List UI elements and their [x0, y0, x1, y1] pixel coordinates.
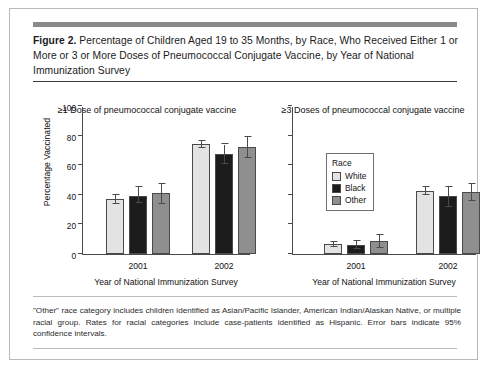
- legend-swatch-icon: [332, 172, 341, 181]
- error-bar-cap: [468, 183, 475, 184]
- plot-area-three-doses: 20012002 Year of National Immunization S…: [292, 107, 476, 255]
- error-bar-cap: [198, 140, 205, 141]
- x-axis-label: Year of National Immunization Survey: [292, 277, 476, 287]
- legend-entry-label: White: [345, 171, 366, 181]
- y-axis-line: [292, 107, 293, 255]
- legend-entries: WhiteBlackOther: [332, 171, 366, 205]
- y-axis-tick: [288, 164, 292, 165]
- y-axis-tick: [78, 135, 82, 136]
- legend-title: Race: [332, 158, 366, 168]
- chart-panel-one-dose: ≥1 Dose of pneumococcal conjugate vaccin…: [36, 97, 258, 293]
- legend-swatch-icon: [332, 196, 341, 205]
- y-axis-tick: [288, 223, 292, 224]
- error-bar-cap: [112, 203, 119, 204]
- caption-divider: [33, 81, 457, 82]
- x-axis-tick-label: 2002: [214, 261, 233, 271]
- error-bar: [471, 184, 472, 201]
- error-bar-cap: [353, 248, 360, 249]
- error-bar-cap: [330, 241, 337, 242]
- bar: [238, 147, 256, 254]
- legend-swatch-icon: [332, 184, 341, 193]
- bar: [192, 144, 210, 254]
- bar: [129, 196, 147, 254]
- error-bar: [138, 187, 139, 203]
- y-axis-tick: [78, 194, 82, 195]
- x-axis-label: Year of National Immunization Survey: [82, 277, 250, 287]
- bar: [106, 199, 124, 254]
- y-axis-tick-label: 40: [67, 192, 76, 202]
- error-bar-cap: [353, 240, 360, 241]
- error-bar: [448, 187, 449, 207]
- footnote-divider-top: [33, 296, 457, 297]
- legend-entry: Other: [332, 195, 366, 205]
- y-axis-tick-label: 100: [62, 103, 76, 113]
- x-axis-tick-label: 2002: [438, 261, 457, 271]
- error-bar-cap: [422, 194, 429, 195]
- error-bar-cap: [112, 194, 119, 195]
- x-axis-line: [292, 254, 476, 255]
- x-axis-tick-label: 2001: [346, 261, 365, 271]
- error-bar: [224, 145, 225, 164]
- bar: [416, 191, 434, 254]
- figure-caption: Figure 2. Percentage of Children Aged 19…: [33, 33, 461, 79]
- x-axis-line: [82, 254, 250, 255]
- error-bar-cap: [158, 203, 165, 204]
- error-bar-cap: [221, 163, 228, 164]
- figure-caption-text: Percentage of Children Aged 19 to 35 Mon…: [33, 35, 458, 76]
- error-bar-cap: [198, 147, 205, 148]
- plot-area-one-dose: 020406080100 20012002 Year of National I…: [82, 107, 250, 255]
- bar: [462, 192, 480, 254]
- y-axis-tick: [288, 105, 292, 106]
- y-axis-tick: [288, 194, 292, 195]
- error-bar-cap: [158, 183, 165, 184]
- y-axis-tick: [78, 253, 82, 254]
- y-axis-tick-label: 20: [67, 221, 76, 231]
- y-axis-tick: [78, 223, 82, 224]
- top-rule: [33, 22, 457, 27]
- legend-entry-label: Black: [345, 183, 365, 193]
- error-bar-cap: [422, 186, 429, 187]
- error-bar-cap: [244, 136, 251, 137]
- error-bar-cap: [135, 202, 142, 203]
- chart-legend: Race WhiteBlackOther: [326, 153, 374, 211]
- error-bar-cap: [244, 157, 251, 158]
- footnote-divider-bottom: [33, 348, 457, 349]
- figure-frame: Figure 2. Percentage of Children Aged 19…: [9, 8, 478, 360]
- legend-entry: Black: [332, 183, 366, 193]
- y-axis-label: Percentage Vaccinated: [42, 107, 52, 217]
- y-axis-tick: [288, 135, 292, 136]
- legend-entry: White: [332, 171, 366, 181]
- error-bar: [247, 137, 248, 158]
- error-bar: [379, 235, 380, 248]
- error-bar-cap: [445, 186, 452, 187]
- legend-entry-label: Other: [345, 195, 366, 205]
- error-bar-cap: [376, 247, 383, 248]
- error-bar: [161, 184, 162, 204]
- figure-footnote: "Other" race category includes children …: [33, 305, 461, 340]
- y-axis-tick: [288, 253, 292, 254]
- y-axis-line: [82, 107, 83, 255]
- y-axis-tick-label: 60: [67, 162, 76, 172]
- error-bar-cap: [330, 246, 337, 247]
- error-bar-cap: [135, 186, 142, 187]
- y-axis-tick: [78, 164, 82, 165]
- error-bar-cap: [468, 200, 475, 201]
- bar: [215, 154, 233, 254]
- y-axis-tick: [78, 105, 82, 106]
- x-axis-tick-label: 2001: [128, 261, 147, 271]
- error-bar-cap: [376, 234, 383, 235]
- chart-panel-three-doses: ≥3 Doses of pneumococcal conjugate vacci…: [262, 97, 484, 293]
- error-bar-cap: [221, 143, 228, 144]
- figure-label: Figure 2.: [33, 35, 76, 46]
- error-bar-cap: [445, 206, 452, 207]
- y-axis-tick-label: 80: [67, 133, 76, 143]
- y-axis-tick-label: 0: [71, 251, 76, 261]
